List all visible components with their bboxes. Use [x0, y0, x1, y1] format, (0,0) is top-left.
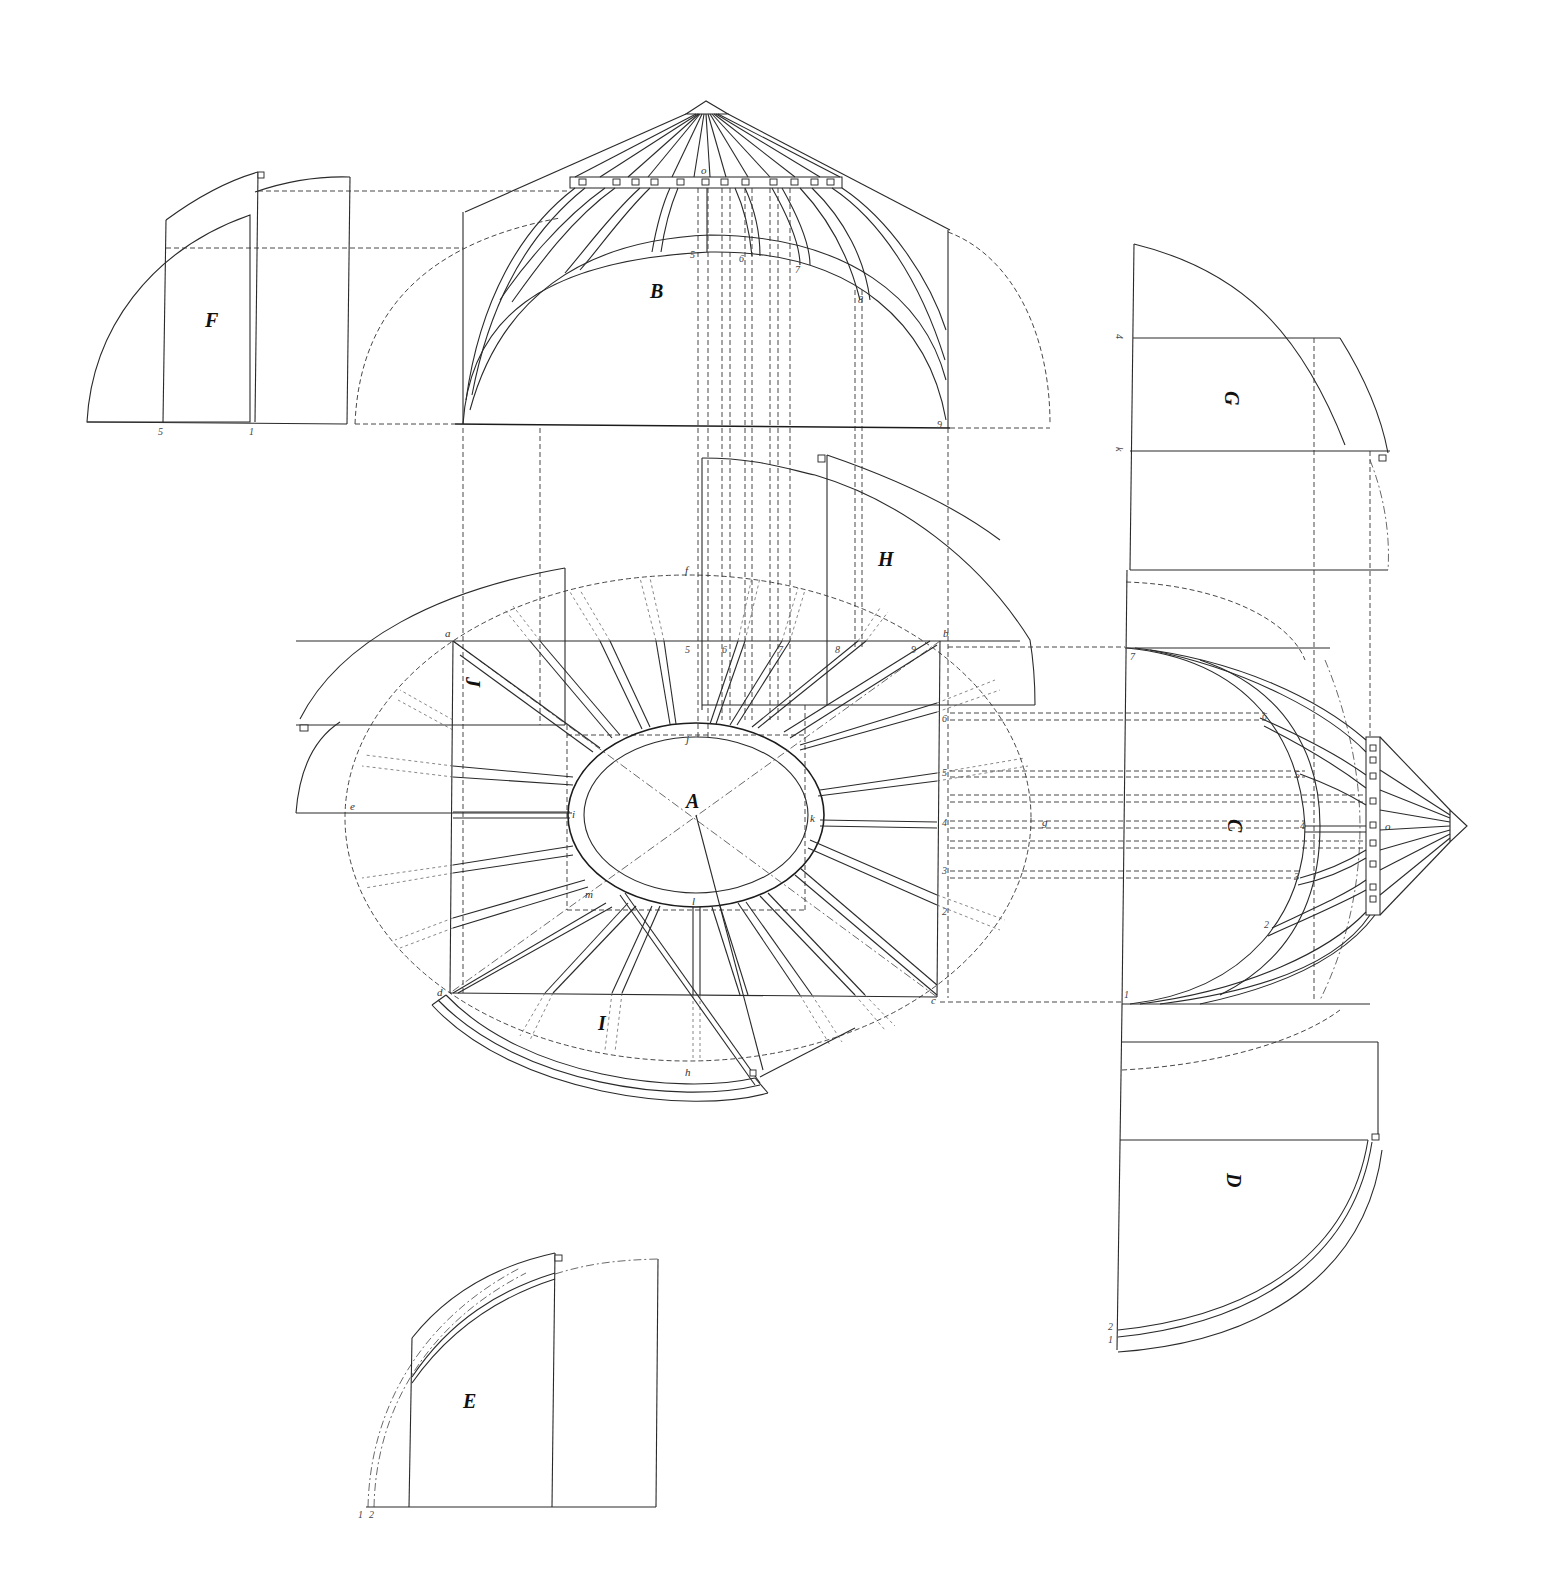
panel-g-development: G 4 k: [1114, 244, 1390, 1000]
svg-text:5: 5: [158, 426, 163, 437]
point-m: m: [585, 888, 593, 900]
point-o-top: o: [701, 164, 707, 176]
point-k: k: [810, 812, 816, 824]
plan-rafters: [453, 641, 937, 995]
panel-c-elevation: C o 7 6 5 4 3 2 1: [940, 570, 1467, 1070]
point-d: d: [437, 986, 443, 998]
svg-text:4: 4: [1114, 334, 1125, 339]
svg-text:3: 3: [1293, 871, 1299, 882]
svg-text:7: 7: [778, 644, 784, 655]
point-c: c: [931, 994, 936, 1006]
panel-f-development: F 5 1: [87, 172, 570, 437]
svg-text:6: 6: [1262, 711, 1267, 722]
label-j: J: [462, 676, 484, 688]
point-e: e: [350, 800, 355, 812]
svg-text:8: 8: [835, 644, 840, 655]
svg-text:7: 7: [795, 264, 801, 275]
label-h: H: [877, 548, 895, 570]
point-o-side: o: [1385, 820, 1391, 832]
label-d: D: [1223, 1172, 1245, 1187]
svg-text:5: 5: [685, 644, 690, 655]
svg-text:2: 2: [369, 1509, 374, 1520]
svg-text:1: 1: [249, 426, 254, 437]
label-c: C: [1224, 819, 1246, 833]
label-i: I: [597, 1012, 607, 1034]
point-h: h: [685, 1066, 691, 1078]
svg-text:5: 5: [942, 767, 947, 778]
svg-text:3: 3: [941, 865, 947, 876]
label-g: G: [1221, 391, 1243, 406]
svg-text:5: 5: [690, 249, 695, 260]
mortise-row-top: [579, 179, 834, 185]
svg-text:k: k: [1114, 447, 1125, 452]
svg-text:7: 7: [1130, 651, 1136, 662]
svg-text:2: 2: [1108, 1321, 1113, 1332]
panel-a-plan: A H I J a b c d e f g h i j k l m 5 6 7 …: [296, 188, 1048, 1101]
point-f: f: [685, 564, 690, 576]
panel-b-elevation: B o 5 6 7 8 9: [355, 101, 1050, 430]
svg-text:6: 6: [739, 253, 744, 264]
label-b: B: [649, 280, 663, 302]
svg-text:9: 9: [937, 419, 942, 430]
svg-text:6: 6: [942, 713, 947, 724]
label-e: E: [462, 1390, 476, 1412]
geometric-plate: B o 5 6 7 8 9 F 5 1 G 4 k: [0, 0, 1550, 1593]
svg-text:2: 2: [1264, 919, 1269, 930]
label-a: A: [684, 790, 699, 812]
svg-text:4: 4: [942, 817, 947, 828]
svg-text:4: 4: [1300, 820, 1305, 831]
svg-text:9: 9: [911, 644, 916, 655]
label-f: F: [204, 309, 219, 331]
point-j: j: [684, 733, 689, 745]
svg-text:1: 1: [1108, 1334, 1113, 1345]
point-i: i: [572, 808, 575, 820]
svg-text:1: 1: [1124, 989, 1129, 1000]
point-b: b: [943, 627, 949, 639]
svg-text:5: 5: [1295, 769, 1300, 780]
panel-e-development: E 1 2: [358, 1253, 658, 1520]
svg-text:2: 2: [942, 906, 947, 917]
svg-text:1: 1: [358, 1509, 363, 1520]
svg-text:6: 6: [722, 644, 727, 655]
point-a: a: [445, 627, 451, 639]
panel-d-development: D 2 1: [1108, 1007, 1382, 1352]
point-g: g: [1042, 816, 1048, 828]
point-l: l: [692, 895, 695, 907]
